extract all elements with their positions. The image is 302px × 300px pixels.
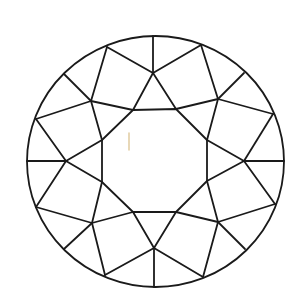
kite-facet-edge: [218, 222, 245, 249]
star-facet-edge: [91, 101, 102, 140]
upper-girdle-facet-edge: [201, 45, 218, 99]
upper-girdle-facet-edge: [244, 114, 273, 161]
upper-girdle-facet-edge: [105, 248, 154, 275]
star-facet-edge: [66, 140, 102, 161]
kite-facet-edge: [64, 223, 92, 249]
star-facet-edge: [176, 99, 218, 109]
star-facet-edge: [92, 182, 102, 223]
upper-girdle-facet-edge: [36, 119, 66, 161]
upper-girdle-facet-edge: [36, 101, 91, 119]
diamond-facet-drawing: [0, 0, 302, 300]
star-facet-edge: [133, 73, 153, 110]
upper-girdle-facet-edge: [92, 223, 105, 275]
table-facet: [102, 109, 207, 212]
upper-girdle-facet-edge: [36, 207, 92, 223]
star-facet-edge: [92, 212, 133, 223]
upper-girdle-facet-edge: [154, 248, 203, 277]
star-facet-edge: [153, 73, 176, 109]
upper-girdle-facet-edge: [218, 204, 275, 222]
star-facet-edge: [91, 101, 133, 110]
upper-girdle-facet-edge: [153, 45, 201, 73]
upper-girdle-facet-edge: [244, 161, 275, 204]
upper-girdle-facet-edge: [36, 161, 66, 207]
kite-facet-edge: [218, 73, 244, 99]
upper-girdle-facet-edge: [91, 47, 107, 101]
star-facet-edge: [66, 161, 102, 182]
star-facet-edge: [207, 161, 244, 181]
star-facet-edge: [176, 212, 218, 222]
star-facet-edge: [207, 181, 218, 222]
upper-girdle-facet-edge: [203, 222, 218, 277]
star-facet-edge: [207, 140, 244, 161]
kite-and-girdle-facets: [27, 36, 284, 287]
kite-facet-edge: [64, 74, 91, 101]
diamond-diagram: [0, 0, 302, 300]
upper-girdle-facet-edge: [107, 47, 153, 73]
upper-girdle-facet-edge: [218, 99, 273, 114]
star-facet-edge: [154, 212, 176, 248]
star-facet-edge: [207, 99, 218, 140]
star-facet-edge: [133, 212, 154, 248]
